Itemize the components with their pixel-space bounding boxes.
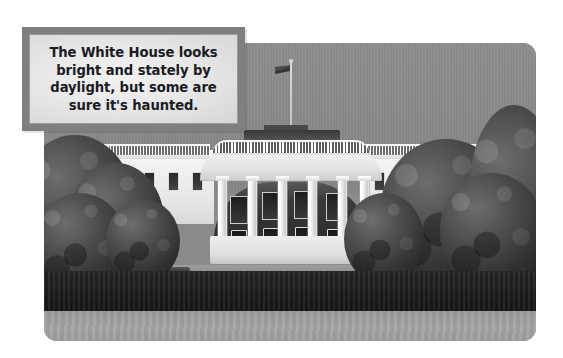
portico-upper-window xyxy=(230,196,248,224)
facade-window xyxy=(168,172,179,191)
south-lawn xyxy=(44,311,536,341)
caption-text: The White House looks bright and stately… xyxy=(44,44,222,114)
flagpole xyxy=(290,62,292,134)
page-canvas: The White House looks bright and stately… xyxy=(0,0,563,358)
portico-balustrade xyxy=(212,140,370,155)
caption-panel: The White House looks bright and stately… xyxy=(29,34,238,124)
caption-box: The White House looks bright and stately… xyxy=(22,27,245,131)
